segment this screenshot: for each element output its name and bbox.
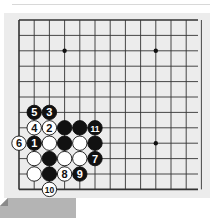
white-stone: 2 <box>42 121 56 135</box>
black-stone: 9 <box>73 167 87 181</box>
move-number: 8 <box>62 168 68 180</box>
move-number: 11 <box>91 124 100 134</box>
star-point-icon <box>154 141 158 145</box>
move-number: 6 <box>16 137 22 149</box>
white-stone <box>42 136 56 150</box>
move-number: 2 <box>46 122 52 134</box>
move-number: 7 <box>92 153 98 165</box>
black-stone <box>73 121 87 135</box>
black-stone <box>57 121 71 135</box>
white-stone <box>57 151 71 165</box>
figure-caption: 图 1 正解 <box>4 200 90 218</box>
black-stone: 11 <box>88 121 102 135</box>
star-point-icon <box>62 49 66 53</box>
star-point-icon <box>154 49 158 53</box>
black-stone <box>88 136 102 150</box>
black-stone: 3 <box>42 105 56 119</box>
black-stone: 7 <box>88 151 102 165</box>
move-number: 1 <box>31 137 37 149</box>
move-number: 5 <box>31 106 37 118</box>
white-stone: 8 <box>57 167 71 181</box>
white-stone: 4 <box>27 121 41 135</box>
go-board-grid: 5342116178910 <box>0 0 210 218</box>
black-stone: 1 <box>27 136 41 150</box>
black-stone <box>42 151 56 165</box>
white-stone: 6 <box>12 136 26 150</box>
move-number: 3 <box>46 106 52 118</box>
black-stone <box>57 136 71 150</box>
white-stone <box>27 167 41 181</box>
black-stone <box>42 167 56 181</box>
white-stone <box>73 136 87 150</box>
white-stone <box>73 151 87 165</box>
move-number: 10 <box>45 185 55 195</box>
black-stone: 5 <box>27 105 41 119</box>
white-stone: 10 <box>42 182 56 196</box>
white-stone <box>27 151 41 165</box>
move-number: 4 <box>31 122 38 134</box>
move-number: 9 <box>77 168 83 180</box>
